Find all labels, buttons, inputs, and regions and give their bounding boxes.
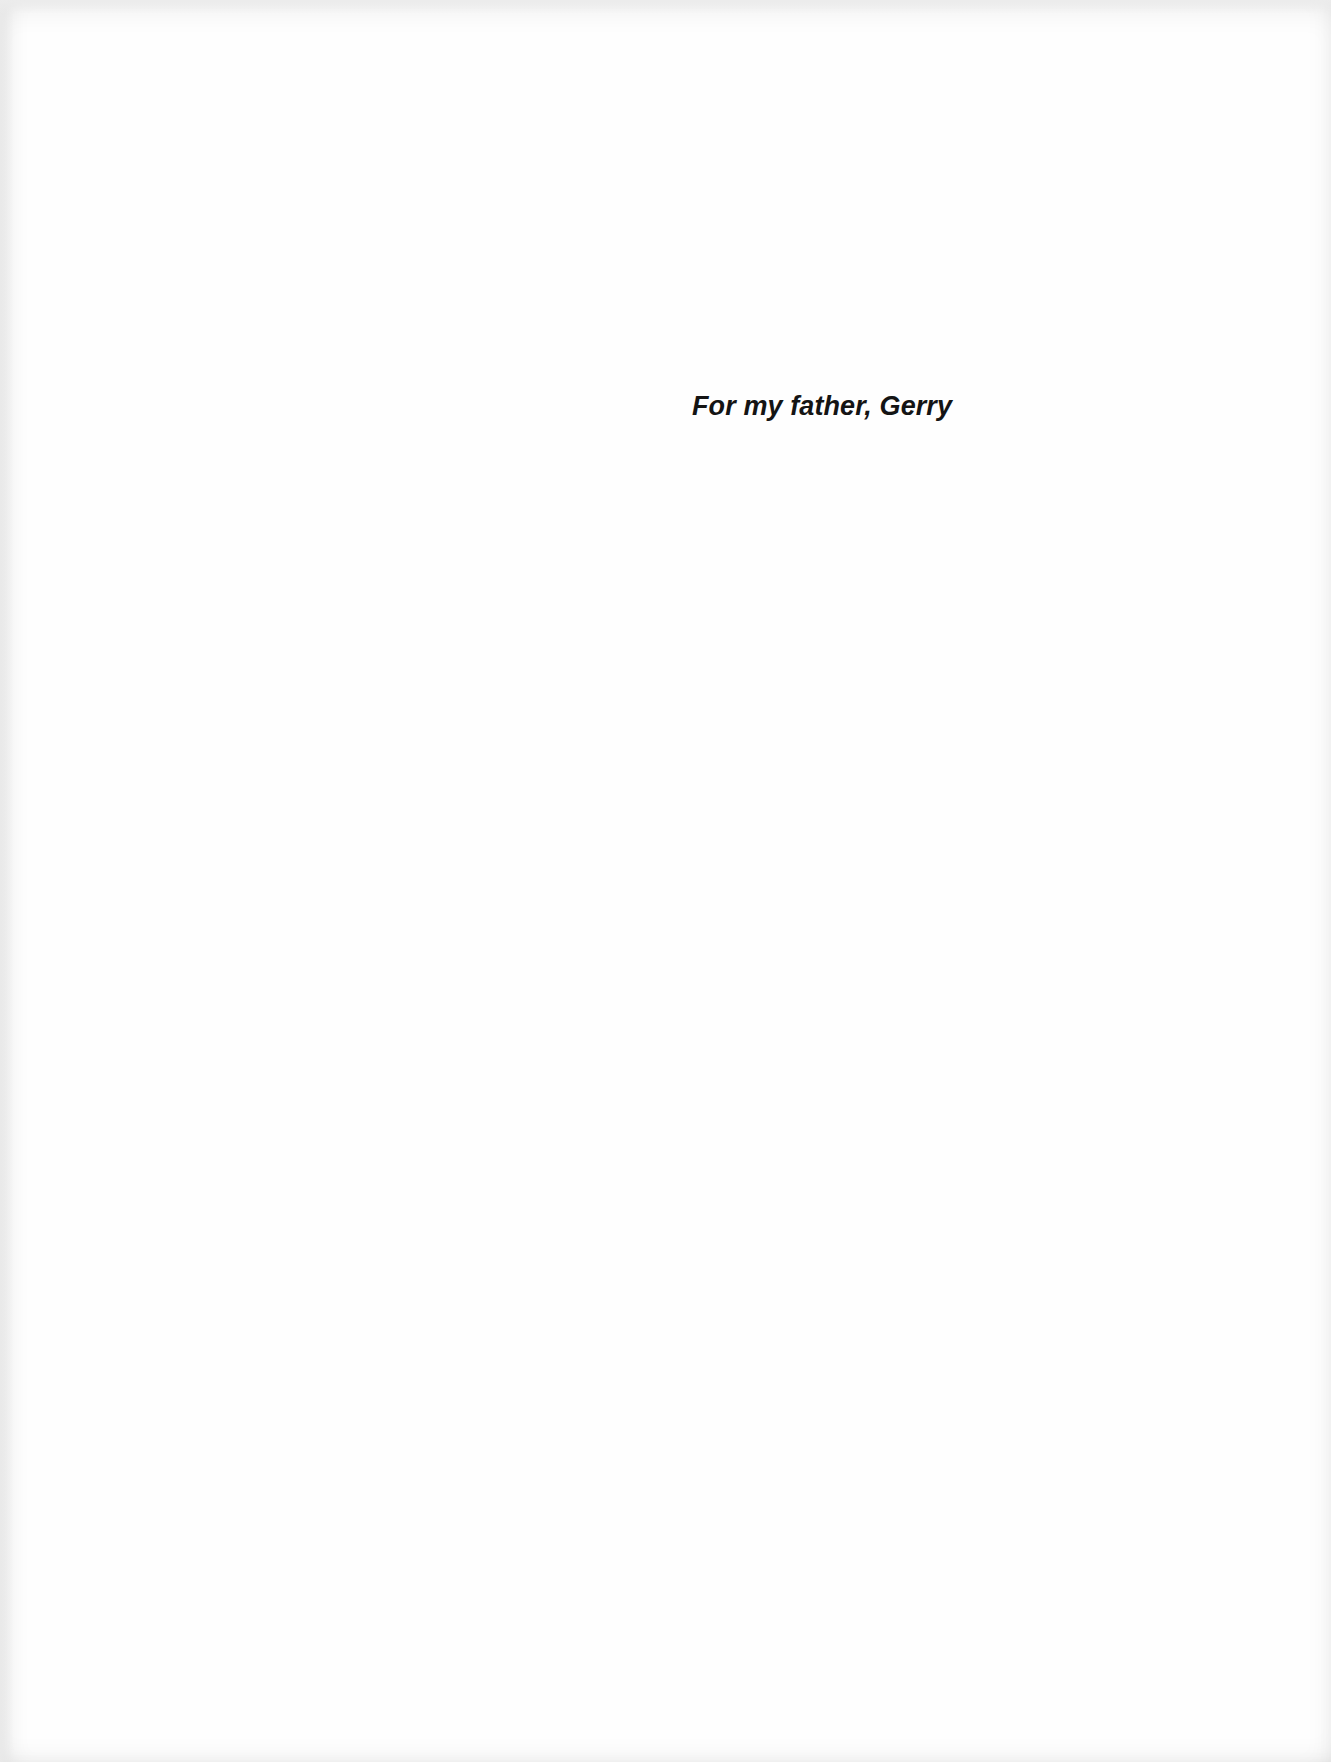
dedication-text: For my father, Gerry xyxy=(692,388,952,424)
page-edge-shadow-left xyxy=(0,0,14,1762)
page-edge-shadow-top xyxy=(0,0,1331,14)
book-page: For my father, Gerry xyxy=(0,0,1331,1762)
